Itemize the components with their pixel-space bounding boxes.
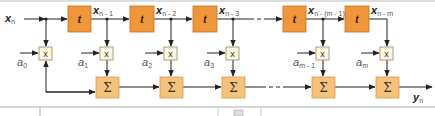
sum-m: Σ: [376, 77, 399, 98]
signal-label-3: xn - 3: [218, 4, 239, 17]
delay-block-1: t: [68, 6, 91, 32]
delay-block-m-1: t: [283, 6, 306, 32]
svg-text:Σ: Σ: [229, 81, 237, 95]
svg-text:Σ: Σ: [319, 81, 327, 95]
sum-m-1: Σ: [312, 77, 335, 98]
multiplier-m: x: [380, 47, 393, 60]
svg-text:Σ: Σ: [383, 81, 391, 95]
svg-text:Σ: Σ: [167, 81, 175, 95]
input-label: xn: [4, 12, 15, 25]
svg-text:x: x: [43, 49, 48, 59]
sum-2: Σ: [160, 77, 183, 98]
delay-block-3: t: [193, 6, 217, 32]
bottom-strip: [0, 107, 435, 116]
delay-block-m: t: [345, 6, 369, 32]
svg-text:x: x: [230, 49, 235, 59]
output-label: yn: [412, 91, 423, 104]
coef-label-m-1: am - 1: [293, 56, 315, 69]
svg-text:Σ: Σ: [103, 81, 111, 95]
delay-block-2: t: [130, 6, 154, 32]
multiplier-2: x: [164, 47, 177, 60]
multiplier-3: x: [226, 47, 239, 60]
signal-label-1: xn - 1: [92, 4, 113, 17]
svg-text:x: x: [168, 49, 173, 59]
multiplier-m-1: x: [316, 47, 329, 60]
coef-label-3: a3: [204, 56, 214, 69]
fir-filter-diagram: t t t t t x x x x x x Σ Σ Σ Σ Σ: [0, 0, 435, 116]
multiplier-1: x: [100, 47, 113, 60]
multiplier-0: x: [39, 47, 52, 60]
svg-text:x: x: [320, 49, 325, 59]
signal-label-2: xn - 2: [155, 4, 176, 17]
coef-label-2: a2: [142, 56, 152, 69]
coef-label-0: a0: [17, 56, 27, 69]
coef-label-1: a1: [78, 56, 88, 69]
coef-label-m: am: [356, 56, 368, 69]
sum-3: Σ: [222, 77, 245, 98]
svg-text:x: x: [104, 49, 109, 59]
sum-1: Σ: [96, 77, 119, 98]
signal-label-m-1: xn - (m - 1): [307, 4, 345, 18]
svg-text:x: x: [384, 49, 389, 59]
signal-label-m: xn - m: [370, 4, 393, 17]
